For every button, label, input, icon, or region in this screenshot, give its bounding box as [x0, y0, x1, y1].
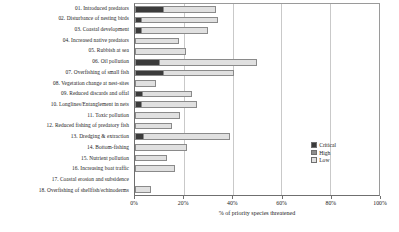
x-axis-tick-label: 80% [325, 200, 336, 206]
bar-row [135, 57, 379, 68]
bar-segment-low [136, 156, 166, 161]
bar-segment-low [136, 166, 174, 171]
stacked-bar [135, 59, 257, 66]
category-label: 08. Vegetation change at nest-sites [0, 78, 132, 89]
x-axis-tick-label: 40% [227, 200, 238, 206]
bar-segment-critical [136, 7, 163, 12]
stacked-bar [135, 6, 216, 13]
stacked-bar [135, 123, 172, 130]
category-label: 06. Oil pollution [0, 57, 132, 68]
x-axis-title: % of priority species threatened [134, 210, 380, 216]
category-label: 03. Coastal development [0, 24, 132, 35]
category-label: 07. Overfishing of small fish [0, 67, 132, 78]
category-label: 12. Reduced fishing of predatory fish [0, 121, 132, 132]
legend-label: Critical [319, 142, 336, 148]
category-label: 09. Reduced discards and offal [0, 89, 132, 100]
x-axis-ticks: 0%20%40%60%80%100% [134, 196, 380, 208]
category-label: 17. Coastal erosion and subsidence [0, 175, 132, 186]
legend-item: High [311, 150, 336, 156]
category-label: 02. Disturbance of nesting birds [0, 14, 132, 25]
bar-segment-low [136, 187, 150, 192]
stacked-bar [135, 186, 151, 193]
bar-segment-low [136, 113, 179, 118]
stacked-bar [135, 155, 167, 162]
category-label: 15. Nutrient pollution [0, 153, 132, 164]
category-label: 16. Increasing boat traffic [0, 164, 132, 175]
stacked-bar [135, 112, 180, 119]
bar-row [135, 184, 379, 195]
bar-segment-low [143, 134, 229, 139]
bar-segment-critical [136, 71, 163, 76]
legend: CriticalHighLow [311, 142, 336, 163]
bar-row [135, 142, 379, 153]
bar-row [135, 99, 379, 110]
horizontal-stacked-bar-chart: 01. Introduced predators02. Disturbance … [0, 0, 399, 232]
x-axis-tick-label: 0% [130, 200, 138, 206]
category-label: 05. Rubbish at sea [0, 46, 132, 57]
category-label: 11. Toxic pollution [0, 110, 132, 121]
category-label: 01. Introduced predators [0, 3, 132, 14]
stacked-bar [135, 144, 187, 151]
legend-label: Low [319, 157, 329, 163]
bar-row [135, 153, 379, 164]
bar-segment-critical [136, 134, 143, 139]
bar-segment-low [136, 124, 171, 129]
category-label: 13. Dredging & extraction [0, 132, 132, 143]
x-axis-tick-label: 100% [373, 200, 387, 206]
bar-row [135, 68, 379, 79]
bar-row [135, 89, 379, 100]
legend-item: Critical [311, 142, 336, 148]
stacked-bar [135, 70, 234, 77]
bar-row [135, 110, 379, 121]
category-label-axis: 01. Introduced predators02. Disturbance … [0, 3, 132, 196]
bar-row [135, 163, 379, 174]
bar-segment-low [141, 28, 207, 33]
stacked-bar [135, 17, 218, 24]
bar-segment-low [136, 49, 185, 54]
stacked-bar [135, 80, 156, 87]
plot-area [134, 3, 380, 196]
legend-swatch-high [311, 150, 317, 156]
category-label: 18. Overfishing of shellfish/echinoderms [0, 185, 132, 196]
category-label: 04. Increased native predators [0, 35, 132, 46]
bar-segment-low [136, 81, 155, 86]
bar-row [135, 25, 379, 36]
bar-segment-low [141, 102, 196, 107]
category-label: 14. Bottom-fishing [0, 142, 132, 153]
stacked-bar [135, 48, 186, 55]
bar-row [135, 4, 379, 15]
bar-row [135, 131, 379, 142]
bar-segment-low [142, 92, 191, 97]
category-label: 10. Longlines/Entanglement in nets [0, 99, 132, 110]
legend-label: High [319, 150, 330, 156]
x-axis-tick-label: 60% [276, 200, 287, 206]
legend-item: Low [311, 157, 336, 163]
bar-segment-low [163, 7, 215, 12]
bar-row [135, 46, 379, 57]
bar-segment-low [141, 18, 217, 23]
bar-row [135, 78, 379, 89]
bar-segment-low [163, 71, 232, 76]
bar-segment-low [136, 145, 186, 150]
stacked-bar [135, 27, 208, 34]
legend-swatch-low [311, 157, 317, 163]
bar-row [135, 15, 379, 26]
bar-series-group [135, 4, 379, 195]
stacked-bar [135, 165, 175, 172]
bar-row [135, 121, 379, 132]
bar-row [135, 174, 379, 185]
stacked-bar [135, 133, 230, 140]
legend-swatch-critical [311, 142, 317, 148]
bar-row [135, 36, 379, 47]
bar-segment-low [159, 60, 256, 65]
stacked-bar [135, 101, 197, 108]
stacked-bar [135, 38, 179, 45]
stacked-bar [135, 91, 192, 98]
bar-segment-low [136, 39, 178, 44]
bar-segment-critical [136, 60, 159, 65]
x-axis-tick-label: 20% [178, 200, 189, 206]
